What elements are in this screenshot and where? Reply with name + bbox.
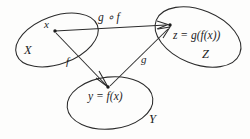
element-label-x: x bbox=[44, 19, 49, 30]
arrow-line-g bbox=[110, 29, 168, 86]
point-dot-z bbox=[168, 23, 171, 26]
arrow-label-g: g bbox=[141, 54, 147, 65]
element-label-y: y = f(x) bbox=[88, 91, 123, 103]
arrow-label-f: f bbox=[66, 56, 69, 67]
function-composition-diagram: X Y Z x y = f(x) z = g(f(x)) f g g ∘ f bbox=[0, 0, 250, 139]
point-dot-x bbox=[53, 29, 56, 32]
arrow-line-g-compose-f bbox=[55, 25, 166, 31]
arrow-label-g-compose-f: g ∘ f bbox=[98, 12, 120, 24]
set-ellipse-y bbox=[65, 73, 156, 134]
diagram-canvas bbox=[0, 0, 250, 139]
arrow-line-f bbox=[56, 33, 106, 85]
point-dot-y bbox=[106, 85, 109, 88]
element-label-z: z = g(f(x)) bbox=[173, 30, 220, 42]
set-ellipse-x bbox=[8, 3, 105, 78]
set-label-x: X bbox=[24, 44, 32, 57]
set-label-y: Y bbox=[149, 113, 156, 126]
arrowhead-f bbox=[96, 71, 108, 87]
set-label-z: Z bbox=[202, 48, 209, 61]
